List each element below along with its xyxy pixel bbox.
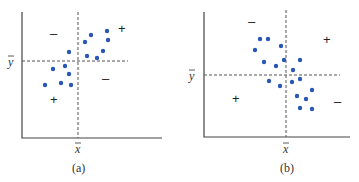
data-point bbox=[298, 58, 302, 62]
sign-lower-right-b: – bbox=[334, 94, 342, 109]
data-point bbox=[310, 88, 314, 92]
sign-upper-right-a: + bbox=[118, 21, 126, 36]
points-b bbox=[253, 37, 314, 111]
caption-b: (b) bbox=[280, 161, 294, 175]
data-point bbox=[69, 83, 73, 87]
sign-upper-left-b: – bbox=[248, 14, 256, 29]
data-point bbox=[59, 81, 63, 85]
figure: – + + – y x (a) – + + – y x (b) bbox=[0, 0, 359, 182]
svg-text:x: x bbox=[74, 142, 81, 156]
data-point bbox=[274, 64, 278, 68]
data-point bbox=[43, 83, 47, 87]
data-point bbox=[95, 56, 99, 60]
svg-text:x: x bbox=[282, 142, 289, 156]
data-point bbox=[262, 60, 266, 64]
data-point bbox=[266, 37, 270, 41]
xbar-label-b: x bbox=[282, 142, 289, 156]
data-point bbox=[106, 38, 110, 42]
caption-a: (a) bbox=[72, 161, 85, 175]
panel-a: – + + – y x (a) bbox=[7, 12, 162, 175]
sign-lower-left-b: + bbox=[232, 91, 240, 106]
data-point bbox=[304, 97, 308, 101]
data-point bbox=[51, 67, 55, 71]
data-point bbox=[279, 44, 283, 48]
data-point bbox=[282, 58, 286, 62]
data-point bbox=[310, 107, 314, 111]
data-point bbox=[258, 37, 262, 41]
xbar-label-a: x bbox=[74, 142, 81, 156]
data-point bbox=[298, 77, 302, 81]
data-point bbox=[105, 29, 109, 33]
data-point bbox=[67, 50, 71, 54]
data-point bbox=[267, 79, 271, 83]
data-point bbox=[67, 72, 71, 76]
data-point bbox=[295, 94, 299, 98]
axes-a bbox=[22, 12, 162, 138]
panel-b: – + + – y x (b) bbox=[188, 10, 350, 175]
data-point bbox=[290, 80, 294, 84]
sign-upper-right-b: + bbox=[323, 32, 331, 47]
ybar-label-b: y bbox=[188, 69, 195, 83]
svg-text:y: y bbox=[188, 69, 195, 83]
ybar-label-a: y bbox=[7, 55, 14, 69]
data-point bbox=[89, 33, 93, 37]
sign-lower-right-a: – bbox=[102, 71, 110, 86]
svg-text:y: y bbox=[7, 55, 14, 69]
data-point bbox=[85, 54, 89, 58]
data-point bbox=[63, 64, 67, 68]
data-point bbox=[291, 68, 295, 72]
data-point bbox=[101, 49, 105, 53]
sign-lower-left-a: + bbox=[50, 92, 58, 107]
data-point bbox=[253, 48, 257, 52]
data-point bbox=[83, 40, 87, 44]
data-point bbox=[298, 106, 302, 110]
sign-upper-left-a: – bbox=[50, 26, 58, 41]
data-point bbox=[278, 84, 282, 88]
